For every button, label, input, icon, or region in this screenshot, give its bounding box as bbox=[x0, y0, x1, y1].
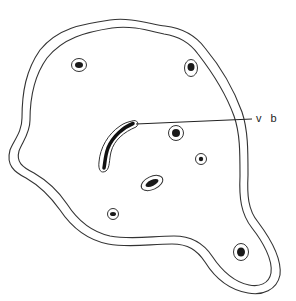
vascular-bundle-label: v b bbox=[256, 112, 280, 124]
vascular-bundle bbox=[196, 154, 207, 165]
vascular-bundle bbox=[139, 172, 165, 194]
vascular-bundle bbox=[108, 209, 119, 220]
leader-line bbox=[136, 119, 252, 124]
vascular-bundle bbox=[234, 244, 249, 261]
elongated-vascular-bundle bbox=[99, 121, 138, 172]
inner-outline bbox=[18, 27, 271, 285]
vascular-bundle bbox=[72, 59, 87, 72]
vascular-bundle bbox=[169, 126, 184, 141]
vascular-bundle bbox=[185, 60, 198, 77]
cross-section-diagram bbox=[0, 0, 296, 301]
